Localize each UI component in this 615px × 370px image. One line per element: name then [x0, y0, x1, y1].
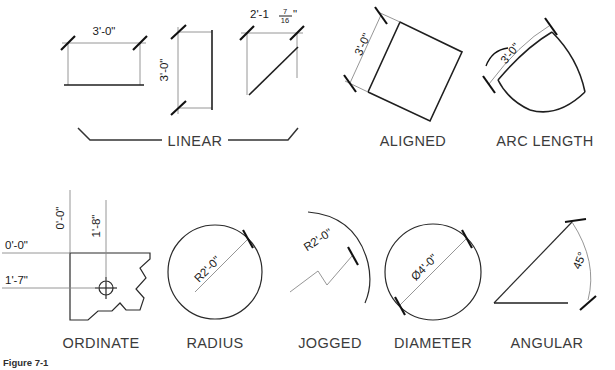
dimension-text-jogged: R2'-0"	[301, 226, 334, 253]
angular-figure: 45°	[494, 219, 596, 310]
object-edge-right	[552, 32, 585, 92]
object-arc-bottom	[530, 92, 585, 112]
bracket-left	[78, 128, 162, 140]
dimension-arc-line	[489, 26, 549, 84]
tick-mark-diameter-end	[462, 230, 472, 248]
category-label-angular: ANGULAR	[511, 335, 584, 351]
arc-length-figure: 3'-0"	[483, 18, 585, 112]
tick-mark-diameter-start	[395, 297, 405, 315]
dimension-text-aligned: 3'-0"	[352, 31, 373, 57]
dimension-text-diameter: Ø4'-0"	[409, 252, 440, 283]
ordinate-text-x-offset: 1'-7"	[5, 274, 28, 286]
bracket-right	[228, 128, 298, 140]
linear-diagonal-figure: 2'-1 7 16 "	[240, 7, 304, 95]
category-label-diameter: DIAMETER	[394, 335, 472, 351]
figure-7-1: 3'-0" 3'-0" 2'-1	[0, 0, 615, 370]
object-arc-jogged	[308, 212, 370, 303]
diameter-figure: Ø4'-0"	[385, 224, 481, 320]
category-label-linear: LINEAR	[168, 133, 223, 149]
object-line-hypotenuse	[494, 222, 572, 303]
technical-drawing-canvas: 3'-0" 3'-0" 2'-1	[0, 0, 615, 370]
object-outline-ordinate	[70, 253, 150, 320]
fraction-denominator: 16	[281, 16, 289, 25]
category-label-aligned: ALIGNED	[380, 133, 446, 149]
fraction-numerator: 7	[283, 7, 287, 16]
dimension-text-linear-horizontal: 3'-0"	[93, 25, 116, 37]
tick-mark-lower	[344, 75, 356, 92]
figure-caption: Figure 7-1	[3, 357, 49, 368]
linear-vertical-figure: 3'-0"	[158, 25, 212, 115]
dimension-text-angular: 45°	[570, 250, 588, 271]
dimension-text-linear-diagonal: 2'-1	[250, 8, 269, 20]
aligned-figure: 3'-0"	[344, 7, 462, 121]
ordinate-figure: 0'-0" 1'-8" 0'-0" 1'-7"	[2, 190, 150, 320]
dimension-text-inch-mark: "	[293, 8, 297, 20]
object-edge-left	[498, 80, 530, 110]
category-label-jogged: JOGGED	[298, 335, 362, 351]
tick-mark-angular-bottom	[580, 296, 596, 310]
category-label-arc-length: ARC LENGTH	[496, 133, 593, 149]
dimension-text-arc-length: 3'-0"	[498, 41, 522, 66]
tick-mark-jogged	[348, 247, 358, 265]
ordinate-text-y-offset: 1'-8"	[90, 215, 102, 238]
dimension-text-linear-vertical: 3'-0"	[158, 59, 170, 82]
tick-mark-radius	[243, 230, 253, 248]
ordinate-text-x-origin: 0'-0"	[5, 239, 28, 251]
tick-mark-angular-top	[565, 219, 586, 222]
linear-label-group: LINEAR	[78, 128, 298, 149]
radius-figure: R2'-0"	[168, 225, 262, 319]
category-label-radius: RADIUS	[186, 335, 243, 351]
category-label-ordinate: ORDINATE	[62, 335, 139, 351]
object-outline-aligned	[368, 22, 462, 121]
linear-horizontal-figure: 3'-0"	[61, 25, 147, 85]
jogged-dimension-line	[290, 256, 352, 292]
jogged-figure: R2'-0"	[290, 212, 370, 303]
ordinate-text-y-origin: 0'-0"	[54, 207, 66, 230]
object-line-diagonal	[249, 47, 298, 95]
